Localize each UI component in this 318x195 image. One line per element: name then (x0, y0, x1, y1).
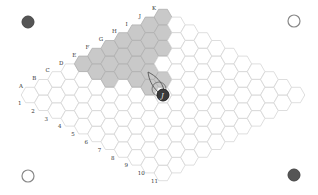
row-label-6: 6 (85, 139, 89, 145)
column-label-b: B (32, 75, 36, 81)
row-label-9: 9 (124, 162, 128, 168)
column-label-a: A (18, 83, 24, 89)
column-label-c: C (46, 67, 50, 73)
column-label-d: D (59, 60, 64, 66)
column-label-e: E (72, 52, 76, 58)
column-label-k: K (152, 5, 157, 11)
row-label-7: 7 (98, 147, 102, 153)
row-label-8: 8 (111, 155, 115, 161)
row-label-1: 1 (18, 100, 22, 106)
row-label-10: 10 (138, 170, 145, 176)
column-label-f: F (86, 44, 90, 50)
row-label-4: 4 (58, 123, 62, 129)
row-label-11: 11 (151, 178, 158, 184)
row-label-2: 2 (31, 108, 35, 114)
column-label-i: I (125, 21, 127, 27)
row-label-3: 3 (45, 116, 49, 122)
corner-marker-top-left (22, 16, 34, 28)
corner-marker-top-right (288, 15, 300, 27)
corner-marker-bottom-right (288, 169, 300, 181)
column-label-h: H (112, 28, 117, 34)
column-label-g: G (99, 36, 103, 42)
hex-board[interactable]: ABCDEFGHIJK1234567891011 J (0, 0, 318, 195)
column-label-j: J (138, 13, 141, 20)
corner-marker-bottom-left (22, 170, 34, 182)
row-label-5: 5 (71, 131, 75, 137)
hex-cell-k11[interactable] (287, 87, 305, 102)
